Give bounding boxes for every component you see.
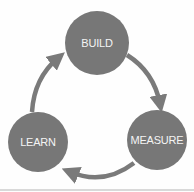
arrow-build-to-measure [127, 55, 160, 104]
bottom-divider [0, 189, 194, 191]
cycle-graphic [0, 0, 194, 192]
arrow-measure-to-learn [70, 163, 134, 177]
arrow-learn-to-build [32, 58, 58, 112]
node-build-label: BUILD [81, 37, 112, 49]
node-learn-label: LEARN [20, 136, 56, 148]
build-measure-learn-diagram: BUILD MEASURE LEARN [0, 0, 194, 192]
node-measure-label: MEASURE [131, 134, 184, 146]
